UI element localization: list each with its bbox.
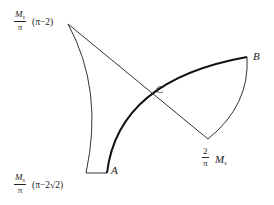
- bottom-right-fraction: 2 π: [202, 147, 209, 168]
- top-left-fraction: Ms π: [14, 10, 26, 32]
- diagram-curves: [0, 0, 274, 205]
- bottom-right-expression: Ms: [215, 154, 227, 166]
- fraction-numerator: M: [15, 9, 23, 19]
- point-label-a: A: [111, 165, 118, 176]
- subscript: s: [23, 14, 25, 20]
- top-left-expression: (π−2): [32, 18, 53, 28]
- point-label-c: C: [156, 84, 163, 95]
- fraction-numerator: 2: [202, 147, 209, 158]
- fraction-denominator: π: [18, 22, 23, 32]
- right-boundary-curve: [208, 57, 247, 139]
- point-label-b: B: [253, 51, 260, 62]
- fraction-denominator: π: [203, 158, 208, 168]
- bottom-left-expression: (π−2√2): [32, 181, 63, 191]
- left-boundary-curve: [68, 24, 92, 173]
- subscript: s: [224, 160, 226, 166]
- subscript: s: [23, 177, 25, 183]
- bottom-left-fraction: Ms π: [14, 173, 26, 195]
- diagram: Ms π (π−2) Ms π (π−2√2) 2 π Ms A C B: [0, 0, 274, 205]
- m-symbol: M: [215, 153, 224, 165]
- fraction-denominator: π: [18, 185, 23, 195]
- fraction-numerator: M: [15, 172, 23, 182]
